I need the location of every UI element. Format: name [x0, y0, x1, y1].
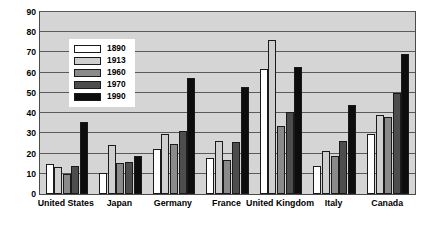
bar	[108, 145, 116, 194]
bar	[206, 158, 214, 194]
bar-group	[254, 12, 308, 194]
bar-group	[147, 12, 201, 194]
legend-item: 1970	[74, 79, 130, 90]
legend-swatch	[74, 81, 101, 89]
bar	[54, 167, 62, 194]
bar	[170, 144, 178, 194]
bar	[260, 69, 268, 194]
bar	[46, 164, 54, 194]
legend-label: 1913	[107, 56, 126, 65]
y-axis-tick-label: 60	[12, 69, 36, 77]
bar	[331, 156, 339, 194]
y-axis-tick-label: 50	[12, 89, 36, 97]
bar	[153, 149, 161, 195]
legend-swatch	[74, 69, 101, 77]
legend-swatch	[74, 57, 101, 65]
legend-item: 1913	[74, 55, 130, 66]
bar	[223, 160, 231, 194]
legend-item: 1960	[74, 67, 130, 78]
legend-swatch	[74, 45, 101, 53]
legend-label: 1970	[107, 80, 126, 89]
bar-chart: Merchandise trade as % of merchandise va…	[0, 0, 424, 233]
y-axis-tick-label: 40	[12, 109, 36, 117]
bar	[187, 78, 195, 194]
bar	[401, 54, 409, 194]
bar-group	[361, 12, 415, 194]
legend-item: 1990	[74, 91, 130, 102]
y-axis-tick-label: 70	[12, 48, 36, 56]
bar	[116, 163, 124, 194]
bar	[376, 115, 384, 194]
bar	[179, 131, 187, 194]
y-axis-tick-label: 80	[12, 28, 36, 36]
bar	[313, 166, 321, 194]
x-axis-tick-label: Canada	[340, 197, 424, 209]
legend: 18901913196019701990	[69, 39, 135, 107]
bar	[125, 162, 133, 194]
bar-group	[201, 12, 255, 194]
y-axis-tick-label: 30	[12, 129, 36, 137]
bar	[80, 122, 88, 194]
bar	[393, 93, 401, 194]
legend-item: 1890	[74, 43, 130, 54]
bar	[63, 174, 71, 194]
bar	[294, 67, 302, 194]
bar	[232, 142, 240, 194]
bar-group	[308, 12, 362, 194]
y-axis-tick-label: 90	[12, 8, 36, 16]
bar	[215, 141, 223, 194]
bar	[339, 141, 347, 194]
bar	[384, 117, 392, 194]
bar	[277, 126, 285, 194]
legend-label: 1990	[107, 92, 126, 101]
bar	[99, 173, 107, 194]
bar	[134, 156, 142, 194]
x-axis-tick-labels: United StatesJapanGermanyFranceUnited Ki…	[39, 197, 416, 211]
bar	[161, 134, 169, 194]
bar	[268, 40, 276, 194]
y-axis-tick-label: 10	[12, 170, 36, 178]
bar	[367, 134, 375, 194]
legend-label: 1890	[107, 44, 126, 53]
bar	[348, 105, 356, 194]
bar	[286, 112, 294, 194]
legend-swatch	[74, 93, 101, 101]
bar	[241, 87, 249, 194]
legend-label: 1960	[107, 68, 126, 77]
bar	[71, 166, 79, 194]
y-axis-tick-label: 20	[12, 150, 36, 158]
bar	[322, 151, 330, 194]
